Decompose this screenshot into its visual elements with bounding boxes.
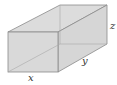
label-x: x bbox=[28, 73, 34, 83]
front-face bbox=[8, 32, 58, 72]
rectangular-prism-figure bbox=[0, 0, 117, 85]
label-z: z bbox=[110, 21, 115, 31]
label-y: y bbox=[82, 56, 88, 66]
